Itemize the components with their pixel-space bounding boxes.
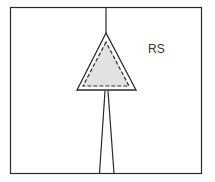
diagram-canvas: RS xyxy=(0,0,215,182)
rs-label: RS xyxy=(148,42,165,56)
stem-right-line xyxy=(108,91,114,174)
stem-left-line xyxy=(100,91,106,174)
